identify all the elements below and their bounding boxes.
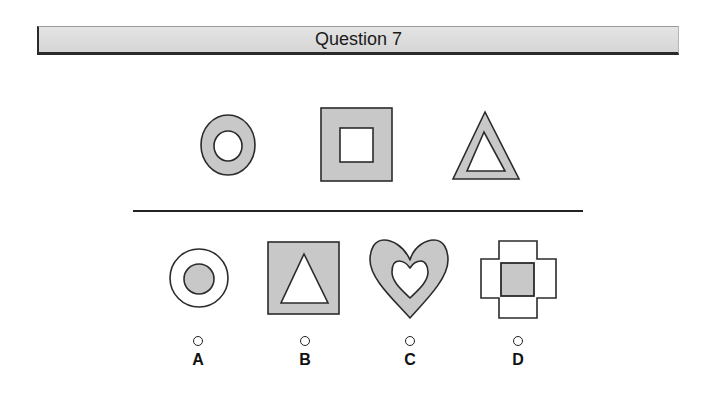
option-a-radio[interactable] — [193, 336, 203, 346]
option-c-shape — [370, 240, 448, 318]
prompt-triangle-frame-shape — [453, 112, 519, 179]
question-figure — [0, 0, 709, 397]
option-b-shape — [268, 242, 339, 314]
option-c-radio[interactable] — [405, 336, 415, 346]
option-d-label[interactable]: D — [503, 351, 533, 369]
option-b-radio[interactable] — [300, 336, 310, 346]
prompt-circle-ring-shape — [201, 115, 255, 175]
option-b-label[interactable]: B — [290, 351, 320, 369]
option-a-shape — [170, 249, 228, 307]
option-d-shape — [481, 241, 556, 318]
prompt-square-frame-shape — [321, 108, 392, 181]
option-c-label[interactable]: C — [395, 351, 425, 369]
option-d-radio[interactable] — [513, 336, 523, 346]
option-a-label[interactable]: A — [183, 351, 213, 369]
